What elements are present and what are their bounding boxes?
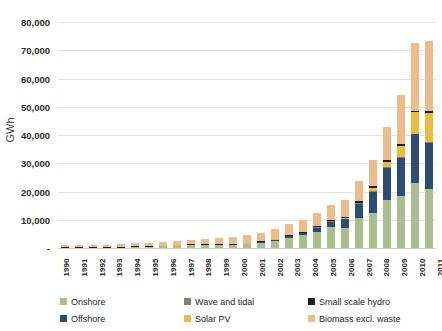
x-tick-label: 1995 [147, 250, 165, 288]
x-tick-label-text: 2001 [258, 259, 267, 277]
bar-segment [341, 219, 350, 228]
bar-column[interactable] [170, 22, 184, 248]
bar-column[interactable] [58, 22, 72, 248]
stacked-bar-chart: GWh -10,00020,00030,00040,00050,00060,00… [0, 0, 442, 331]
bar-stack [327, 205, 336, 248]
x-tick-label-text: 1991 [80, 259, 89, 277]
x-tick-label-text: 2005 [329, 259, 338, 277]
x-tick-label: 2008 [378, 250, 396, 288]
bar-column[interactable] [100, 22, 114, 248]
legend-swatch-icon [60, 315, 67, 322]
x-tick-label: 1991 [76, 250, 94, 288]
bar-column[interactable] [296, 22, 310, 248]
bar-column[interactable] [324, 22, 338, 248]
legend-label: Biomass excl. waste [319, 314, 401, 324]
y-tick-label: - [47, 243, 50, 254]
y-tick-label: 80,000 [21, 17, 50, 28]
bar-column[interactable] [338, 22, 352, 248]
bar-stack [257, 233, 266, 248]
legend-label: Onshore [71, 297, 106, 307]
bar-column[interactable] [282, 22, 296, 248]
bar-segment [313, 213, 322, 226]
x-tick-label: 1992 [94, 250, 112, 288]
bar-column[interactable] [408, 22, 422, 248]
x-tick-label: 2002 [272, 250, 290, 288]
bar-column[interactable] [198, 22, 212, 248]
bar-column[interactable] [212, 22, 226, 248]
bar-stack [201, 239, 210, 248]
bar-segment [397, 196, 406, 248]
bar-column[interactable] [366, 22, 380, 248]
legend-label: Offshore [71, 314, 105, 324]
bar-stack [355, 181, 364, 248]
x-tick-label: 2005 [325, 250, 343, 288]
bar-segment [397, 95, 406, 144]
x-tick-label-text: 2002 [276, 259, 285, 277]
bar-segment [243, 235, 252, 243]
y-tick-label: 60,000 [21, 73, 50, 84]
bar-segment [341, 200, 350, 217]
x-tick-label: 2004 [307, 250, 325, 288]
bar-column[interactable] [226, 22, 240, 248]
x-tick-label-text: 1999 [223, 259, 232, 277]
bar-segment [327, 205, 336, 220]
bar-column[interactable] [184, 22, 198, 248]
x-tick-label: 1996 [165, 250, 183, 288]
x-tick-label-text: 1994 [134, 259, 143, 277]
bar-segment [425, 41, 434, 111]
bar-stack [383, 127, 392, 248]
bar-stack [173, 241, 182, 248]
legend-swatch-icon [184, 298, 191, 305]
x-tick-label-text: 2010 [418, 259, 427, 277]
bar-stack [285, 224, 294, 248]
bar-column[interactable] [254, 22, 268, 248]
bar-column[interactable] [72, 22, 86, 248]
legend-item[interactable]: Biomass excl. waste [308, 314, 432, 324]
x-tick-label: 1997 [183, 250, 201, 288]
bar-segment [411, 112, 420, 133]
bar-segment [229, 237, 238, 244]
legend-item[interactable]: Small scale hydro [308, 297, 432, 307]
legend-item[interactable]: Wave and tidal [184, 297, 308, 307]
legend-item[interactable]: Offshore [60, 314, 184, 324]
bar-segment [383, 127, 392, 160]
bar-stack [313, 213, 322, 248]
bar-segment [285, 238, 294, 248]
bar-column[interactable] [114, 22, 128, 248]
bar-series-container [58, 22, 436, 248]
bar-column[interactable] [86, 22, 100, 248]
bar-segment [425, 143, 434, 189]
legend-item[interactable]: Onshore [60, 297, 184, 307]
bar-column[interactable] [268, 22, 282, 248]
bar-column[interactable] [380, 22, 394, 248]
bar-stack [215, 238, 224, 248]
bar-segment [411, 134, 420, 183]
x-tick-label: 2006 [343, 250, 361, 288]
bar-segment [383, 200, 392, 248]
bar-column[interactable] [142, 22, 156, 248]
x-tick-label-text: 2009 [401, 259, 410, 277]
legend-item[interactable]: Solar PV [184, 314, 308, 324]
bar-column[interactable] [394, 22, 408, 248]
x-tick-label-text: 1993 [116, 259, 125, 277]
x-tick-label: 2009 [396, 250, 414, 288]
y-tick-label: 30,000 [21, 158, 50, 169]
bar-column[interactable] [128, 22, 142, 248]
legend-label: Wave and tidal [195, 297, 254, 307]
x-tick-label: 1994 [129, 250, 147, 288]
bar-stack [243, 235, 252, 248]
bar-segment [327, 227, 336, 248]
x-tick-label-text: 2008 [383, 259, 392, 277]
bar-column[interactable] [240, 22, 254, 248]
bar-column[interactable] [422, 22, 436, 248]
bar-stack [411, 43, 420, 248]
bar-segment [257, 233, 266, 242]
bar-column[interactable] [352, 22, 366, 248]
bar-column[interactable] [310, 22, 324, 248]
bar-column[interactable] [156, 22, 170, 248]
bar-segment [369, 160, 378, 187]
bar-segment [397, 146, 406, 157]
x-tick-label-text: 2000 [240, 259, 249, 277]
x-axis-tick-labels: 1990199119921993199419951996199719981999… [58, 250, 436, 288]
x-tick-label: 1993 [111, 250, 129, 288]
